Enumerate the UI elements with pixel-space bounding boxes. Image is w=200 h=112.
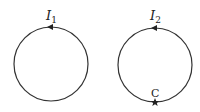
current-loop-2: I2 C	[118, 8, 192, 106]
arrow-left-icon	[151, 25, 157, 31]
diagram-canvas: I1 I2 C	[0, 0, 200, 112]
current-loop-1: I1	[14, 8, 88, 101]
loop-2-label: I2	[149, 8, 161, 25]
loop-1-label: I1	[45, 8, 57, 25]
loop-1-circle	[14, 27, 88, 101]
point-c-label: C	[151, 87, 159, 100]
